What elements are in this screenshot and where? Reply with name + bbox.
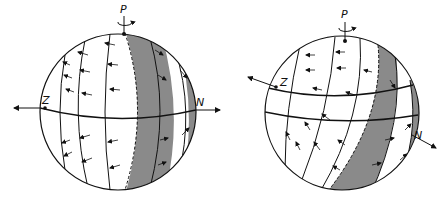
axis-label-z: Z (279, 76, 288, 89)
right-sphere: P Z N (248, 8, 436, 195)
pole-label: P (120, 3, 127, 16)
axis-label-z: Z (41, 94, 50, 107)
left-sphere: P Z N (14, 3, 220, 195)
shaded-band (125, 30, 174, 195)
axis-label-n: N (196, 96, 204, 109)
axis-label-n: N (414, 129, 422, 142)
pole-label: P (341, 8, 348, 21)
rotation-icon (339, 27, 353, 31)
two-sphere-diagram: P Z N (0, 0, 444, 198)
rotation-icon (118, 21, 132, 25)
